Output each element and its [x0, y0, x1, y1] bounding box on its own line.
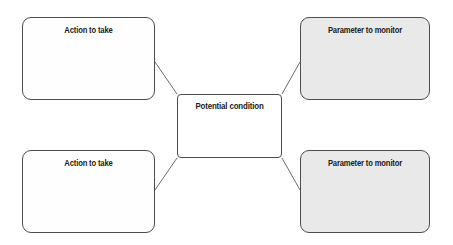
node-label: Action to take [28, 18, 149, 34]
connector-center-to-action-top [155, 62, 177, 94]
node-parameter-to-monitor-bottom[interactable]: Parameter to monitor [300, 150, 430, 233]
node-action-to-take-bottom[interactable]: Action to take [22, 150, 155, 233]
connector-center-to-param-bottom [282, 158, 300, 190]
node-label: Parameter to monitor [306, 18, 424, 34]
node-label: Parameter to monitor [306, 151, 424, 167]
node-potential-condition[interactable]: Potential condition [177, 94, 282, 158]
diagram-canvas: Action to take Parameter to monitor Acti… [0, 0, 453, 245]
node-parameter-to-monitor-top[interactable]: Parameter to monitor [300, 17, 430, 100]
connector-center-to-param-top [282, 62, 300, 94]
node-action-to-take-top[interactable]: Action to take [22, 17, 155, 100]
connector-center-to-action-bottom [155, 158, 177, 190]
node-label: Action to take [28, 151, 149, 167]
node-label: Potential condition [182, 95, 277, 111]
